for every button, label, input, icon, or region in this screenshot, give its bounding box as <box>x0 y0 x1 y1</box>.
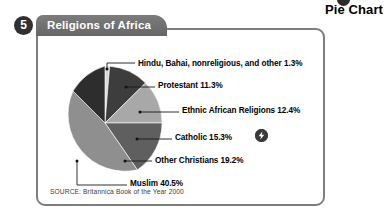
pie-label-catholic: Catholic 15.3% <box>175 133 232 142</box>
pie-label-ethnic-african: Ethnic African Religions 12.4% <box>182 106 300 115</box>
pie-label-protestant: Protestant 11.3% <box>158 81 223 90</box>
section-heading: Pie Chart <box>325 2 383 17</box>
marker-dot-catholic <box>136 138 139 141</box>
chart-card: Hindu, Bahai, nonreligious, and other 1.… <box>36 28 325 206</box>
pie-chart-figure: Pie Chart 5 <box>0 0 391 221</box>
marker-dot-ethnic <box>139 111 142 114</box>
pie-label-hindu: Hindu, Bahai, nonreligious, and other 1.… <box>138 59 302 68</box>
marker-dot-hindu <box>106 68 109 71</box>
card-title-tab: Religions of Africa <box>36 15 167 36</box>
marker-dot-other-christians <box>124 160 127 163</box>
marker-dot-muslim <box>76 160 79 163</box>
pie-label-other-christians: Other Christians 19.2% <box>155 156 244 165</box>
pie-label-muslim: Muslim 40.5% <box>130 179 183 188</box>
pie-slices <box>68 66 162 171</box>
source-note: SOURCE: Britannica Book of the Year 2000 <box>50 188 184 195</box>
marker-dot-protestant <box>125 86 128 89</box>
chart-area: Hindu, Bahai, nonreligious, and other 1.… <box>38 30 327 208</box>
figure-number-badge: 5 <box>14 16 33 35</box>
lightning-bolt-icon <box>255 129 268 142</box>
